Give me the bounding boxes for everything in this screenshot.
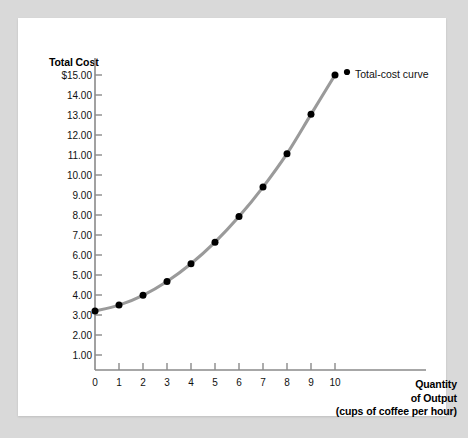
data-point-marker <box>308 111 315 118</box>
x-axis-title-line-2: of Output <box>317 392 457 406</box>
series-legend-label: Total-cost curve <box>355 68 429 80</box>
data-point-marker <box>164 278 171 285</box>
data-point-marker <box>140 292 147 299</box>
data-point-marker <box>236 213 243 220</box>
legend-marker-icon <box>344 69 350 75</box>
data-point-marker <box>260 184 267 191</box>
data-point-markers <box>92 72 339 315</box>
figure-container: Total Cost $15.00 14.00 13.00 12.00 11.0… <box>0 0 468 438</box>
x-axis-title: Quantity of Output (cups of coffee per h… <box>317 378 457 419</box>
chart-panel: Total Cost $15.00 14.00 13.00 12.00 11.0… <box>18 18 446 416</box>
data-point-marker <box>92 308 99 315</box>
x-axis <box>95 363 426 370</box>
data-point-marker <box>116 302 123 309</box>
data-point-marker <box>188 260 195 267</box>
x-axis-title-line-1: Quantity <box>317 378 457 392</box>
data-point-marker <box>332 72 339 79</box>
data-point-marker <box>284 150 291 157</box>
y-axis <box>95 58 102 370</box>
x-axis-title-line-3: (cups of coffee per hour) <box>317 405 457 419</box>
data-point-marker <box>212 239 219 246</box>
total-cost-curve <box>95 75 335 311</box>
